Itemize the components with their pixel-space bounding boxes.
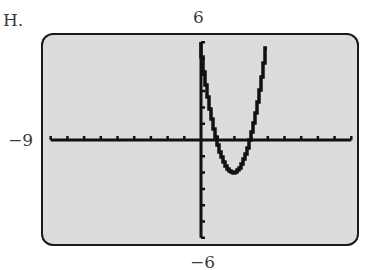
parabola-curve <box>201 42 267 173</box>
ymax-label: 6 <box>193 9 204 26</box>
xmin-label: −9 <box>8 132 33 149</box>
graph-plot <box>43 35 357 244</box>
calculator-screen <box>41 33 359 246</box>
problem-label: H. <box>3 12 23 29</box>
ymin-label: −6 <box>190 254 215 270</box>
